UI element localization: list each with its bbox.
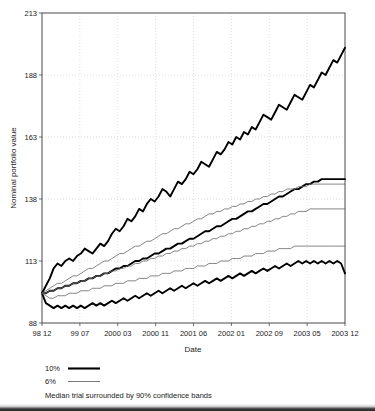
y-tick-label: 88 [29, 319, 37, 328]
x-tick-label: 2003 05 [294, 329, 321, 338]
x-tick-label: 2002 09 [256, 329, 283, 338]
y-tick-label: 188 [24, 71, 37, 80]
x-axis-label: Date [185, 345, 202, 354]
y-tick-label: 113 [25, 257, 37, 266]
y-axis-label: Nominal portfolio value [9, 127, 18, 209]
y-tick-label: 163 [24, 133, 37, 142]
x-tick-label: 2000 03 [104, 329, 131, 338]
legend-label-6pct: 6% [45, 377, 56, 386]
nominal-portfolio-value-chart: 88113138163188213 98 1299 072000 032000 … [0, 0, 375, 411]
x-tick-label: 2002 01 [218, 329, 245, 338]
y-tick-label: 138 [24, 195, 37, 204]
x-tick-label: 2001 06 [180, 329, 207, 338]
legend-label-10pct: 10% [45, 364, 60, 373]
page-edge-band [0, 404, 375, 411]
x-tick-label: 98 12 [33, 329, 52, 338]
x-tick-label: 2000 11 [142, 329, 169, 338]
y-tick-label: 213 [24, 9, 37, 18]
x-tick-label: 99 07 [70, 329, 89, 338]
chart-caption: Median trial surrounded by 90% confidenc… [45, 391, 212, 400]
x-tick-label: 2003 12 [331, 329, 358, 338]
